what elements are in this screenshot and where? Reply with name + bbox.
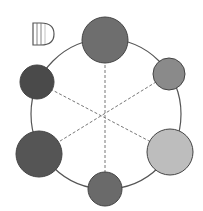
circle-lower-left <box>16 131 62 177</box>
circle-upper-right <box>153 58 185 90</box>
circle-bottom <box>88 172 122 206</box>
label-d: D <box>0 0 54 45</box>
circle-upper-left <box>20 65 54 99</box>
color-ring-diagram: D <box>0 0 203 211</box>
circle-top <box>82 17 128 63</box>
circle-lower-right <box>147 129 193 175</box>
